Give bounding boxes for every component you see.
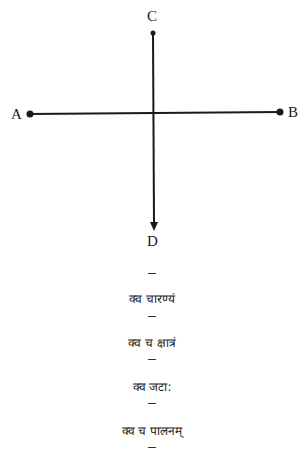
- separator-dash: [148, 403, 156, 404]
- line-ab: [29, 112, 280, 114]
- point-a-dot: [27, 111, 34, 118]
- label-a: A: [11, 107, 22, 122]
- cross-diagram: [0, 0, 304, 240]
- verse-line: क्व जटा:: [0, 380, 304, 394]
- separator-dash: [148, 359, 156, 360]
- point-b-dot: [277, 109, 284, 116]
- label-d: D: [147, 234, 158, 249]
- label-c: C: [147, 9, 157, 24]
- separator-dash: [148, 447, 156, 448]
- verse-line: क्व च पालनम्: [0, 424, 304, 438]
- verse-line: क्व चारण्यं: [0, 292, 304, 306]
- label-b: B: [288, 105, 298, 120]
- separator-dash: [148, 316, 156, 317]
- point-c-dot: [151, 31, 156, 36]
- line-cd: [153, 33, 154, 224]
- verse-line: क्व च क्षात्रं: [0, 336, 304, 350]
- separator-dash: [148, 273, 156, 274]
- arrow-down-icon: [150, 222, 158, 231]
